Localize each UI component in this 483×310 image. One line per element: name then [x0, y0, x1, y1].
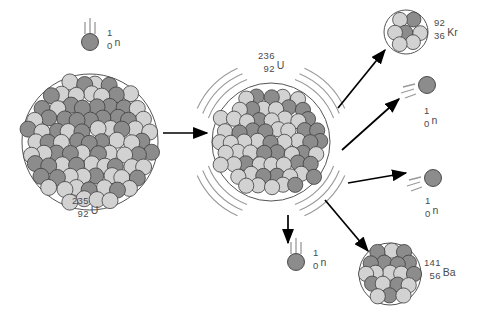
- mass-number: 236: [258, 51, 275, 61]
- label-emitted-neutron-bottom: 1 0 n: [313, 248, 326, 270]
- neutron-sphere: [425, 170, 442, 187]
- arrow-to-neutron-mid-right: [348, 173, 406, 183]
- element-symbol: n: [319, 250, 327, 268]
- neutron-sphere: [226, 111, 241, 126]
- neutron-sphere: [406, 35, 421, 50]
- fission-diagram: 1 0 n 235 92 U 236 92 U 92 36 Kr 141 56 …: [0, 0, 483, 310]
- label-emitted-neutron-mid-right: 1 0 n: [425, 196, 438, 218]
- atomic-number: 36: [434, 31, 445, 41]
- atomic-number: 92: [258, 64, 275, 74]
- atomic-number: 56: [424, 271, 441, 281]
- neutron-sphere: [102, 193, 118, 209]
- arrow-to-barium: [325, 200, 368, 251]
- neutron-sphere: [213, 157, 228, 172]
- label-uranium-236: 236 92 U: [258, 51, 284, 73]
- neutron-sphere: [82, 34, 99, 51]
- particle-emitted-neutron-top-right: [401, 77, 436, 99]
- proton-sphere: [406, 12, 421, 27]
- element-symbol: Kr: [445, 20, 458, 38]
- diagram-canvas: [0, 0, 483, 310]
- motion-line: [409, 177, 421, 180]
- neutron-sphere: [392, 37, 407, 52]
- mass-number: 141: [424, 258, 441, 268]
- particle-incoming-neutron: [82, 18, 99, 51]
- neutron-sphere: [288, 254, 305, 271]
- label-emitted-neutron-top-right: 1 0 n: [424, 106, 437, 128]
- mass-number: 92: [434, 18, 445, 28]
- proton-sphere: [288, 177, 303, 192]
- neutron-sphere: [264, 180, 279, 195]
- element-symbol: n: [430, 108, 438, 126]
- arrow-to-neutron-top-right: [342, 99, 399, 150]
- label-krypton-92: 92 36 Kr: [434, 18, 458, 40]
- motion-line: [411, 187, 422, 191]
- particle-emitted-neutron-bottom: [288, 238, 305, 271]
- motion-line: [403, 84, 415, 87]
- motion-line: [401, 89, 414, 93]
- label-incoming-neutron: 1 0 n: [107, 28, 120, 50]
- arrow-to-krypton: [338, 50, 385, 108]
- neutron-sphere: [419, 77, 436, 94]
- element-symbol: n: [431, 198, 439, 216]
- neutron-sphere: [239, 178, 254, 193]
- nucleus-barium-141: [358, 243, 421, 305]
- particle-emitted-neutron-mid-right: [407, 170, 442, 192]
- label-barium-141: 141 56 Ba: [424, 258, 456, 280]
- neutron-sphere: [41, 179, 57, 195]
- motion-line: [407, 182, 420, 186]
- nucleus-krypton-92: [384, 10, 428, 54]
- motion-line: [405, 94, 416, 98]
- nucleus-uranium-236: [212, 83, 330, 201]
- element-symbol: U: [275, 53, 285, 71]
- proton-sphere: [306, 169, 321, 184]
- mass-number: 235: [72, 196, 89, 206]
- neutron-sphere: [396, 288, 411, 303]
- atomic-number: 92: [72, 209, 89, 219]
- element-symbol: n: [113, 30, 121, 48]
- nucleon-spheres-layer: [20, 10, 428, 305]
- element-symbol: Ba: [441, 260, 456, 278]
- element-symbol: U: [89, 198, 99, 216]
- neutron-sphere: [123, 86, 139, 102]
- label-uranium-235: 235 92 U: [72, 196, 98, 218]
- neutron-sphere: [370, 289, 385, 304]
- nucleus-uranium-235: [20, 74, 159, 210]
